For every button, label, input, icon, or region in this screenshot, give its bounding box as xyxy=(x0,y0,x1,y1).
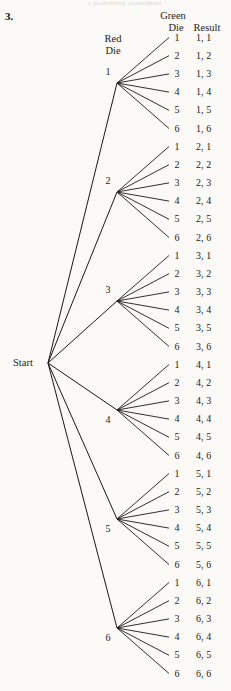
green-die-value-2-3: 3 xyxy=(175,177,180,188)
result-value-1-2: 1, 2 xyxy=(196,50,211,61)
green-die-value-5-5: 5 xyxy=(175,540,180,551)
result-value-3-5: 3, 5 xyxy=(196,322,211,333)
green-die-value-5-3: 3 xyxy=(175,504,180,515)
green-die-value-5-6: 6 xyxy=(175,559,180,570)
green-die-value-4-4: 4 xyxy=(175,413,180,424)
green-die-value-3-1: 1 xyxy=(175,250,180,261)
red-die-header-line1: Red xyxy=(105,33,122,44)
green-die-value-2-2: 2 xyxy=(175,159,180,170)
green-die-value-6-3: 3 xyxy=(175,613,180,624)
trunk-line-red-2 xyxy=(48,192,117,363)
result-value-6-5: 6, 5 xyxy=(196,649,211,660)
green-die-value-2-6: 6 xyxy=(175,232,180,243)
green-die-value-6-1: 1 xyxy=(175,577,180,588)
result-value-1-4: 1, 4 xyxy=(196,86,211,97)
green-die-value-5-1: 1 xyxy=(175,468,180,479)
green-die-value-6-5: 5 xyxy=(175,649,180,660)
result-value-3-4: 3, 4 xyxy=(196,304,211,315)
green-die-value-6-2: 2 xyxy=(175,595,180,606)
green-die-value-3-6: 6 xyxy=(175,341,180,352)
green-die-value-2-5: 5 xyxy=(175,213,180,224)
result-value-5-6: 5, 6 xyxy=(196,559,211,570)
green-die-value-3-5: 5 xyxy=(175,322,180,333)
result-value-4-6: 4, 6 xyxy=(196,450,211,461)
green-die-header-line1: Green xyxy=(160,10,186,21)
result-value-6-6: 6, 6 xyxy=(196,668,211,679)
result-value-3-1: 3, 1 xyxy=(196,250,211,261)
result-value-3-2: 3, 2 xyxy=(196,268,211,279)
green-die-value-4-1: 1 xyxy=(175,359,180,370)
result-value-5-2: 5, 2 xyxy=(196,486,211,497)
result-value-4-3: 4, 3 xyxy=(196,395,211,406)
result-value-2-2: 2, 2 xyxy=(196,159,211,170)
red-die-value-1: 1 xyxy=(106,66,111,77)
green-die-value-1-5: 5 xyxy=(175,104,180,115)
green-die-value-4-5: 5 xyxy=(175,431,180,442)
result-value-1-1: 1, 1 xyxy=(196,32,211,43)
red-die-header-line2: Die xyxy=(105,45,120,56)
red-die-value-2: 2 xyxy=(106,175,111,186)
result-value-6-3: 6, 3 xyxy=(196,613,211,624)
branch-lines xyxy=(117,38,169,674)
tree-diagram-page: a probability experiment 3. Start Red Di… xyxy=(0,0,231,691)
result-value-4-5: 4, 5 xyxy=(196,431,211,442)
result-value-5-3: 5, 3 xyxy=(196,504,211,515)
result-value-4-2: 4, 2 xyxy=(196,377,211,388)
result-value-2-5: 2, 5 xyxy=(196,213,211,224)
result-value-3-6: 3, 6 xyxy=(196,341,211,352)
result-value-5-1: 5, 1 xyxy=(196,468,211,479)
trunk-lines xyxy=(48,83,117,628)
result-value-3-3: 3, 3 xyxy=(196,286,211,297)
green-die-value-1-6: 6 xyxy=(175,123,180,134)
green-die-value-1-1: 1 xyxy=(175,32,180,43)
result-value-6-1: 6, 1 xyxy=(196,577,211,588)
result-value-5-5: 5, 5 xyxy=(196,540,211,551)
red-die-value-5: 5 xyxy=(106,523,111,534)
result-value-1-5: 1, 5 xyxy=(196,104,211,115)
red-die-value-4: 4 xyxy=(106,414,111,425)
result-value-2-1: 2, 1 xyxy=(196,141,211,152)
trunk-line-red-1 xyxy=(48,83,117,363)
green-die-value-3-2: 2 xyxy=(175,268,180,279)
green-die-value-6-4: 4 xyxy=(175,631,180,642)
trunk-line-red-3 xyxy=(48,301,117,363)
result-value-5-4: 5, 4 xyxy=(196,522,211,533)
green-die-value-3-4: 4 xyxy=(175,304,180,315)
green-die-value-1-3: 3 xyxy=(175,68,180,79)
result-value-6-2: 6, 2 xyxy=(196,595,211,606)
result-value-2-3: 2, 3 xyxy=(196,177,211,188)
green-die-value-1-2: 2 xyxy=(175,50,180,61)
result-value-1-6: 1, 6 xyxy=(196,123,211,134)
green-die-value-2-1: 1 xyxy=(175,141,180,152)
red-die-value-6: 6 xyxy=(106,632,111,643)
red-die-value-3: 3 xyxy=(106,284,111,295)
start-node-label: Start xyxy=(13,357,33,368)
green-die-value-2-4: 4 xyxy=(175,195,180,206)
green-die-value-4-6: 6 xyxy=(175,450,180,461)
result-value-4-1: 4, 1 xyxy=(196,359,211,370)
green-die-value-3-3: 3 xyxy=(175,286,180,297)
result-value-1-3: 1, 3 xyxy=(196,68,211,79)
result-value-4-4: 4, 4 xyxy=(196,413,211,424)
green-die-value-5-4: 4 xyxy=(175,522,180,533)
green-die-value-6-6: 6 xyxy=(175,668,180,679)
green-die-value-5-2: 2 xyxy=(175,486,180,497)
result-value-2-6: 2, 6 xyxy=(196,232,211,243)
result-value-2-4: 2, 4 xyxy=(196,195,211,206)
green-die-value-4-3: 3 xyxy=(175,395,180,406)
green-die-value-1-4: 4 xyxy=(175,86,180,97)
result-value-6-4: 6, 4 xyxy=(196,631,211,642)
green-die-value-4-2: 2 xyxy=(175,377,180,388)
